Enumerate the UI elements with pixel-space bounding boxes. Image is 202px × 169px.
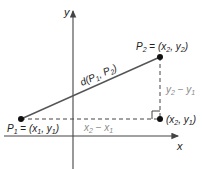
- point-corner: [157, 116, 163, 122]
- p1-label: P1 = (x1, y1): [7, 123, 59, 135]
- p2-label: P2 = (x2, y2): [136, 41, 188, 53]
- corner-label: (x2, y1): [166, 114, 196, 126]
- y-axis-label: y: [63, 6, 71, 18]
- point-p1: [18, 116, 24, 122]
- distance-segment: [21, 57, 160, 119]
- x-axis-label: x: [176, 140, 183, 152]
- distance-diagram: y x P2 = (x2, y2) P1 = (x1, y1) (x2, y1)…: [0, 0, 202, 169]
- point-p2: [157, 54, 163, 60]
- vertical-leg-label: y2 − y1: [165, 84, 195, 96]
- horizontal-leg-label: x2 − x1: [83, 122, 113, 134]
